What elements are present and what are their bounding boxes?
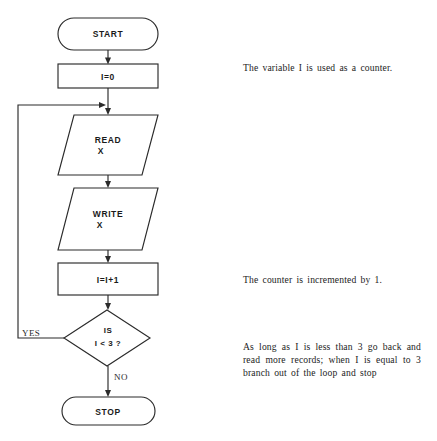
node-write[interactable]: WRITE X [58,188,158,250]
node-write-label-line1: WRITE [93,209,123,219]
node-write-label-line2: X [97,220,103,230]
node-start[interactable]: START [58,18,158,50]
connector-read-to-write [105,175,111,188]
node-decision-label-line2: I < 3 ? [95,339,121,348]
annotation-counter: The variable I is used as a counter. [243,61,433,74]
flowchart-canvas: START I=0 READ X WRITE X I=I+1 IS I < [0,0,437,441]
node-read-label-line1: READ [95,135,122,145]
node-init[interactable]: I=0 [58,64,158,88]
node-decision[interactable]: IS I < 3 ? [64,310,150,366]
connector-write-to-increment [105,250,111,263]
node-read-label-line2: X [98,146,104,156]
node-start-label: START [93,29,124,39]
connector-init-to-read [105,88,111,115]
node-increment[interactable]: I=I+1 [58,263,158,295]
node-decision-label-line1: IS [104,326,113,335]
annotation-loop: As long as I is less than 3 go back and … [243,340,421,380]
connector-decision-to-stop [105,366,111,397]
connector-start-to-init [105,50,111,65]
node-stop-label: STOP [95,407,120,417]
branch-label-no: NO [114,372,128,382]
annotation-increment: The counter is incremented by 1. [243,273,433,286]
node-init-label: I=0 [101,72,115,82]
node-increment-label: I=I+1 [97,275,119,285]
node-stop[interactable]: STOP [62,397,155,425]
connector-increment-to-decision [105,295,111,310]
branch-label-yes: YES [22,328,40,338]
node-read[interactable]: READ X [58,115,158,175]
